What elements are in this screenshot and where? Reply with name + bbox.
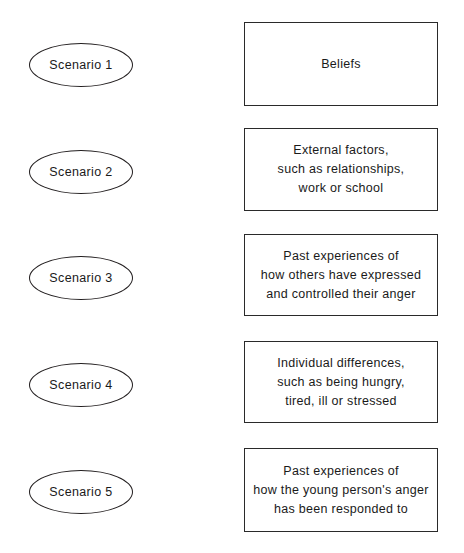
factor-box-4: Individual differences, such as being hu… (244, 341, 438, 423)
scenario-ellipse-4: Scenario 4 (29, 363, 133, 407)
factor-box-line: such as relationships, (278, 160, 405, 179)
diagram-page: • • • • • • • • • • • • • • • • Scenario… (0, 0, 464, 553)
factor-box-2: External factors, such as relationships,… (244, 128, 438, 211)
factor-box-line: how the young person's anger (253, 481, 428, 500)
scenario-ellipse-label: Scenario 3 (49, 271, 112, 284)
factor-box-5: Past experiences of how the young person… (244, 448, 438, 532)
factor-box-line: such as being hungry, (277, 373, 405, 392)
factor-box-line: Beliefs (321, 55, 361, 74)
scenario-ellipse-label: Scenario 5 (49, 485, 112, 498)
factor-box-line: External factors, (293, 141, 388, 160)
scenario-ellipse-1: Scenario 1 (29, 43, 133, 87)
factor-box-line: Individual differences, (277, 354, 405, 373)
factor-box-line: has been responded to (274, 500, 408, 519)
clipped-title-text: • • • • • • • • • • • • • • • • (0, 0, 464, 4)
factor-box-line: how others have expressed (261, 266, 421, 285)
scenario-ellipse-label: Scenario 1 (49, 58, 112, 71)
factor-box-line: and controlled their anger (266, 285, 416, 304)
scenario-ellipse-label: Scenario 4 (49, 378, 112, 391)
factor-box-line: Past experiences of (283, 247, 398, 266)
factor-box-1: Beliefs (244, 22, 438, 106)
factor-box-3: Past experiences of how others have expr… (244, 234, 438, 316)
scenario-ellipse-5: Scenario 5 (29, 470, 133, 514)
clipped-title-strip: • • • • • • • • • • • • • • • • (0, 0, 464, 7)
scenario-ellipse-3: Scenario 3 (29, 256, 133, 300)
scenario-ellipse-2: Scenario 2 (29, 150, 133, 194)
scenario-ellipse-label: Scenario 2 (49, 165, 112, 178)
factor-box-line: tired, ill or stressed (285, 392, 397, 411)
factor-box-line: work or school (299, 179, 384, 198)
factor-box-line: Past experiences of (283, 462, 398, 481)
